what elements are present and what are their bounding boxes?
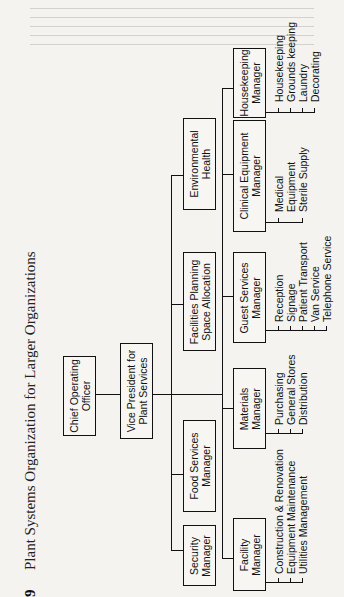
branch-materials: [222, 408, 233, 409]
duty-tick: [302, 429, 303, 434]
duty-item: General Stores: [285, 354, 297, 425]
duty-item: Equipment Maintenance: [285, 461, 297, 574]
duty-item: Reception: [273, 275, 285, 322]
duty-item: Equipment: [285, 162, 297, 212]
box-materials: Materials Manager: [233, 368, 266, 449]
duty-tick: [326, 326, 327, 331]
box-security: Security Manager: [183, 525, 216, 586]
duty-tick: [290, 429, 291, 434]
duty-tick: [290, 108, 291, 113]
duty-item: Telephone Service: [321, 236, 333, 322]
box-clinical-equipment: Clinical Equipment Manager: [233, 120, 266, 232]
duty-rail-materials: [266, 433, 303, 434]
org-chart-page: 9 Plant Systems Organization for Larger …: [0, 0, 344, 597]
box-guest-services: Guest Services Manager: [233, 252, 266, 343]
box-environmental-health: Environmental Health: [183, 118, 216, 210]
duty-item: Purchasing: [273, 372, 285, 425]
duty-tick: [278, 108, 279, 113]
duty-tick: [302, 326, 303, 331]
figure-title: Plant Systems Organization for Larger Or…: [22, 251, 39, 570]
branch-housekeeping: [222, 88, 233, 89]
duty-rail-guest: [266, 330, 327, 331]
duty-tick: [302, 108, 303, 113]
duty-item: Patient Transport: [297, 242, 309, 322]
connector-lower-spine: [222, 88, 223, 559]
duty-tick: [314, 326, 315, 331]
box-label: Housekeeping Manager: [238, 49, 261, 116]
branch-clinical: [222, 174, 233, 175]
duty-tick: [314, 108, 315, 113]
branch-food: [171, 474, 183, 475]
duty-tick: [278, 578, 279, 583]
branch-facility: [222, 558, 233, 559]
duty-tick: [290, 326, 291, 331]
box-label: Facilities Planning Space Allocation: [188, 259, 211, 344]
box-facility: Facility Manager: [233, 518, 266, 591]
box-label: Environmental Health: [188, 130, 211, 197]
box-label: Clinical Equipment Manager: [238, 133, 261, 220]
duty-item: Van Service: [309, 266, 321, 322]
duty-tick: [278, 429, 279, 434]
branch-security: [171, 550, 183, 551]
duty-item: Construction & Renovation: [273, 449, 285, 574]
duty-item: Utilities Management: [297, 476, 309, 574]
box-label: Security Manager: [188, 535, 211, 576]
connector-coo-vp-spine: [95, 394, 222, 395]
box-label: Vice President for Plant Services: [125, 350, 148, 433]
box-label: Food Services Manager: [188, 432, 211, 499]
duty-item: Laundry: [297, 64, 309, 102]
duty-item: Decorating: [309, 51, 321, 102]
box-food-services: Food Services Manager: [183, 420, 216, 512]
branch-facilities-planning: [171, 304, 183, 305]
branch-guest: [222, 296, 233, 297]
box-label: Guest Services Manager: [238, 262, 261, 333]
duty-item: Distribution: [297, 372, 309, 425]
box-facilities-planning: Facilities Planning Space Allocation: [183, 252, 216, 351]
box-label: Chief Operating Officer: [68, 359, 91, 433]
duty-tick: [290, 578, 291, 583]
duty-rail-clinical: [266, 222, 303, 223]
duty-rail-facility: [266, 582, 303, 583]
box-vice-president: Vice President for Plant Services: [120, 343, 153, 439]
duty-item: Signage: [285, 283, 297, 322]
figure-number: 9: [22, 590, 39, 597]
connector-upper-spine: [171, 175, 172, 550]
box-chief-operating-officer: Chief Operating Officer: [63, 356, 96, 436]
box-label: Facility Manager: [238, 534, 261, 575]
branch-environmental: [171, 175, 183, 176]
duty-item: Medical: [273, 176, 285, 212]
duty-item: Sterile Supply: [297, 147, 309, 212]
duty-tick: [302, 218, 303, 223]
duty-tick: [278, 326, 279, 331]
duty-item: Housekeeping: [273, 35, 285, 102]
box-housekeeping: Housekeeping Manager: [233, 48, 266, 118]
duty-item: Grounds keeping: [285, 22, 297, 102]
duty-tick: [278, 218, 279, 223]
box-label: Materials Manager: [238, 387, 261, 430]
duty-tick: [302, 578, 303, 583]
